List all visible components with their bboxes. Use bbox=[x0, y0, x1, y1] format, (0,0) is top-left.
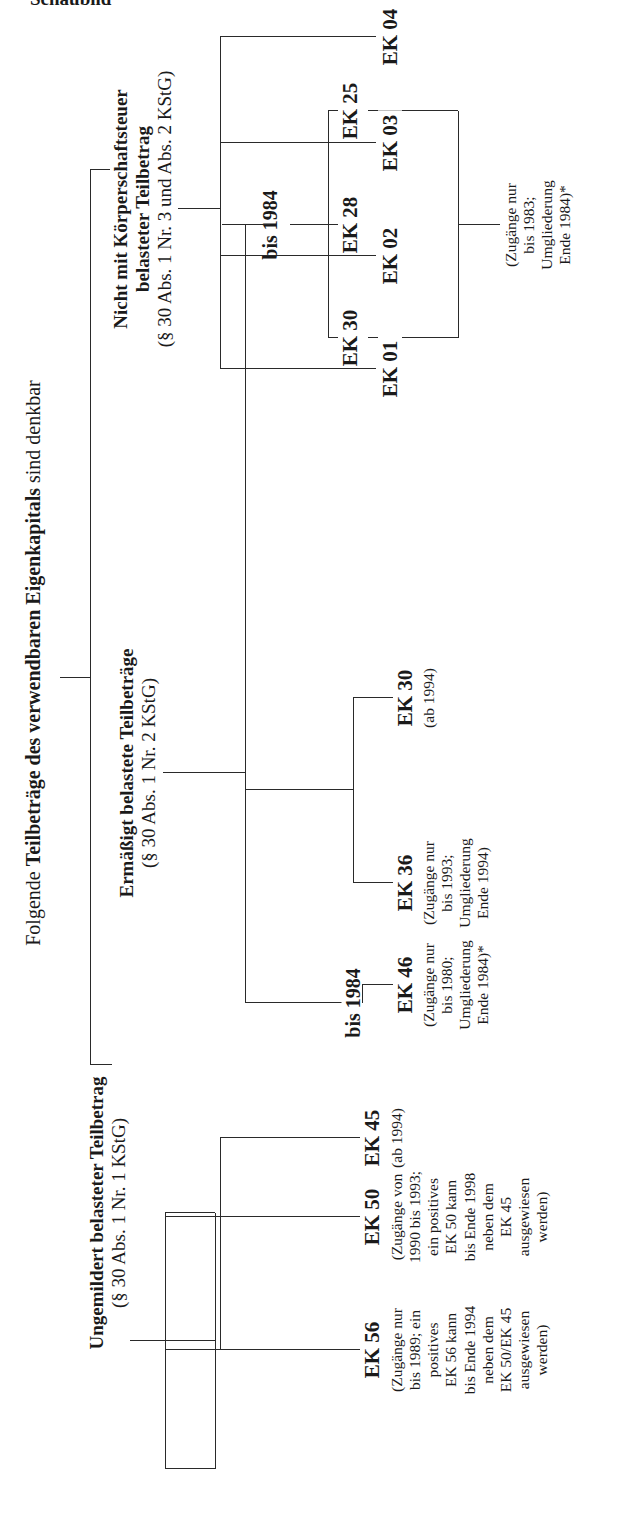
ek46-node: EK 46 bbox=[393, 953, 417, 1018]
ek36-node: EK 36 bbox=[393, 851, 417, 916]
ek01-node: EK 01 bbox=[378, 337, 402, 402]
ek25-top bbox=[328, 110, 338, 111]
subgroup-note-stem bbox=[458, 224, 500, 225]
cat1-children-bar bbox=[220, 1138, 221, 1350]
ek02-node: EK 02 bbox=[378, 224, 402, 289]
cat1-stem bbox=[130, 1340, 215, 1341]
bis1984-left-drop bbox=[245, 1002, 353, 1003]
bis-left-to-ek46 bbox=[362, 985, 363, 1003]
ek50-node: EK 50 bbox=[360, 1185, 384, 1250]
ek56-connector bbox=[165, 1350, 166, 1469]
cat2-bar bbox=[245, 225, 246, 1003]
ek45-node: EK 45 bbox=[360, 1106, 384, 1171]
root-label: Folgende Teilbeträge des verwendbaren Ei… bbox=[22, 376, 45, 950]
ek02-leg bbox=[220, 255, 376, 256]
cat1-bar bbox=[215, 1213, 216, 1469]
bis-right-to-ek28 bbox=[290, 224, 338, 225]
ek50-leg bbox=[165, 1216, 360, 1217]
ek28-node: EK 28 bbox=[338, 193, 362, 258]
ek30-subgroup-node: EK 30 bbox=[338, 306, 362, 371]
ek46-leg bbox=[362, 984, 393, 985]
cat1-drop bbox=[90, 1064, 112, 1065]
tree-diagram: Folgende Teilbeträge des verwendbaren Ei… bbox=[0, 0, 634, 1523]
mid-bar bbox=[353, 698, 354, 883]
ek50-note: (Zugänge von 1990 bis 1993; ein positive… bbox=[388, 1171, 551, 1263]
ek03-node: EK 03 bbox=[378, 111, 402, 176]
mid-stem bbox=[245, 789, 353, 790]
bis-1984-left-label: bis 1984 bbox=[342, 964, 365, 1041]
ek56-drop bbox=[165, 1468, 215, 1469]
ek45-leg bbox=[220, 1137, 360, 1138]
ek04-node: EK 04 bbox=[378, 5, 402, 70]
cat3-bar bbox=[220, 37, 221, 369]
ek36-note: (Zugänge nur bis 1993; Umgliederung Ende… bbox=[420, 838, 493, 928]
cat3-stem bbox=[178, 208, 220, 209]
ek25-node: EK 25 bbox=[338, 79, 362, 144]
ek01-leg bbox=[220, 368, 376, 369]
ek30b-leg bbox=[353, 697, 393, 698]
subgroup-top-bar bbox=[328, 111, 329, 338]
ek30a-top bbox=[328, 337, 338, 338]
ek56-leg bbox=[165, 1349, 360, 1350]
ek56-note: (Zugänge nur bis 1989; ein positives EK … bbox=[388, 1306, 551, 1395]
bis1984-right-stem bbox=[222, 224, 245, 225]
subgroup-note: (Zugänge nur bis 1983; Umgliederung Ende… bbox=[502, 180, 575, 270]
category-nicht-belastet: Nicht mit Körperschaftsteuer belasteter … bbox=[110, 71, 176, 348]
ek56-node: EK 56 bbox=[360, 1318, 384, 1383]
ek04-leg bbox=[220, 36, 376, 37]
ek30-ab1994-note: (ab 1994) bbox=[420, 668, 438, 728]
ek46-note: (Zugänge nur bis 1980; Umgliederung Ende… bbox=[420, 940, 493, 1030]
root-bar bbox=[90, 169, 91, 1065]
category-ermaessigt: Ermäßigt belastete Teilbeträge (§ 30 Abs… bbox=[116, 648, 160, 897]
ek03-leg bbox=[220, 142, 376, 143]
cat2-stem bbox=[163, 772, 245, 773]
ek45-note: (ab 1994) bbox=[388, 1108, 406, 1168]
ek36-leg bbox=[353, 882, 393, 883]
ek30-ab1994-node: EK 30 bbox=[393, 666, 417, 731]
root-stem bbox=[60, 677, 90, 678]
ek45-drop bbox=[165, 1212, 215, 1213]
bis-right-lower bbox=[245, 224, 270, 225]
bis-1984-right-label: bis 1984 bbox=[259, 186, 282, 263]
category-ungemildert: Ungemildert belasteter Teilbetrag (§ 30 … bbox=[86, 1077, 130, 1350]
